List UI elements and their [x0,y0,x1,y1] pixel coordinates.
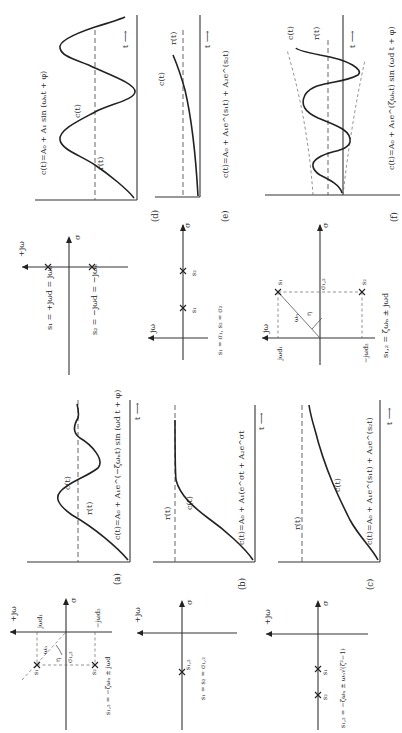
panel-b-pole-plot: σ +jω s₁,₂ s₁ = s₂ = σ₁,₂ [133,599,237,730]
omega-n-line [22,632,66,680]
sigma-label: σ [73,234,82,240]
c-label: c(t) [63,476,72,490]
jwd2-label: −jωd₂ [362,343,370,363]
eta-label: η [305,312,313,316]
omega-n-label: ωₙ [292,314,300,322]
s2-label: s₂ [190,270,198,276]
imag-axis-arrow-icon [262,335,268,341]
t-arrow-label: t ⟶ [257,412,266,430]
jw-label: +jω [263,609,272,625]
s12-label: s₁,₂ [184,659,192,670]
real-axis-arrow-icon [66,236,72,243]
panel-c-response: t ⟶ c(t) r(t) c(t)=A₀ + A₁e^(s₁t) + A₂e^… [278,400,394,590]
equation-e-response: c(t)=A₀ + A₁e^(s₁t) + A₂e^(s₂t) [221,50,230,178]
r-label: r(t) [96,157,105,170]
imag-axis-arrow-icon [10,629,16,635]
imag-axis-arrow-icon [148,335,154,341]
equation-a-response: c(t)=A₀ + A₁e^(−ζωₙt) sin (ωd t + φ) [113,390,122,540]
equation-c-pole: s₁,₂ = −ζωₙ ± ωₙ√(ζ²−1) [339,648,347,728]
s2-label: s₂ [321,694,329,700]
equation-f-pole: s₁,₂ = ζωₙ ± jωd [381,293,390,358]
s1-label: s₁ [276,279,284,285]
jw-label: jω [148,324,157,334]
c-label: c(t) [157,72,166,86]
r-label: r(t) [312,27,321,40]
envelope-upper [287,50,313,195]
s1-label: s₁ [321,669,329,675]
response-curve-c [173,55,198,196]
r-label: r(t) [293,517,302,530]
sigma12-label: σ₁,₂ [66,651,74,663]
equation-e-pole: s₁ = σ₁, s₂ = σ₂ [216,305,224,355]
caption-e: (e) [220,210,230,222]
jwd2-label: −jωd₂ [94,608,102,628]
sigma-label: σ [321,222,330,228]
panel-a-pole-plot: σ +jω s₁ s₂ σ₁,₂ ωₙ η jωd₁ −jωd₂ s₁,₂ = … [9,597,112,730]
sigma-label: σ [185,599,194,605]
eta-label: η [54,658,62,662]
equation-c-response: c(t)=A₀ + A₁e^(s₁t) + A₂e^(s₂t) [365,417,374,545]
jw-label: +jω [133,607,142,623]
jw-label: +jω [9,606,18,622]
equation-d-response: c(t)=A₀ + A₁ sin (ωₙt + φ) [39,71,48,175]
t-arrow-label: t ⟶ [385,407,394,425]
sigma-label: σ [321,600,330,606]
imag-axis-arrow-icon [22,264,28,270]
t-arrow-label: t ⟶ [203,30,212,48]
caption-f: (f) [389,212,399,222]
jw-label: +jω [17,241,26,257]
panel-b-response: t ⟶ c(t) r(t) c(t)=A₀ + A₁(e^σt + A₂e^σt… [153,405,266,590]
equation-d-pole-1: s₁ = +jωd = jωₙ [45,265,54,330]
t-arrow-label: t ⟶ [121,30,130,48]
jw-label: jω [261,324,270,334]
t-arrow-label: t ⟶ [348,30,357,48]
equation-b-pole: s₁ = s₂ = σ₁,₂ [199,657,207,700]
c-label: c(t) [185,496,194,510]
imag-axis-arrow-icon [137,630,143,636]
equation-b-response: c(t)=A₀ + A₁(e^σt + A₂e^σt [237,430,246,545]
s2-label: s₂ [360,279,368,285]
caption-b: (b) [237,578,247,590]
caption-c: (c) [365,579,375,590]
panel-c-pole-plot: σ +jω s₁ s₂ s₁,₂ = −ζωₙ ± ωₙ√(ζ²−1) [263,600,368,730]
c-label: c(t) [286,26,295,40]
pole-response-figure: t ⟶ c(t) r(t) c(t)=A₀ + A₁ sin (ωₙt + φ)… [0,0,402,733]
panel-e-response: t ⟶ c(t) r(t) c(t)=A₀ + A₁e^(s₁t) + A₂e^… [155,15,230,222]
caption-a: (a) [112,573,122,585]
panel-f-pole-plot: σ jω s₁ s₂ σ₁,₂ ωₙ η jωd₁ −jωd₂ s₁,₂ = ζ… [261,222,390,365]
jwd1-label: jωd₁ [36,614,44,629]
panel-e-pole-plot: σ jω s₂ s₁ s₁ = σ₁, s₂ = σ₂ [148,222,224,360]
equation-f-response: c(t)=A₀ + A₁e^(ζωₙt) sin (ωd t + φ) [387,26,396,170]
imag-axis-arrow-icon [266,631,272,637]
s1-label: s₁ [32,669,40,675]
r-label: r(t) [169,32,178,45]
s1-label: s₁ [190,307,198,313]
sigma12-label: σ₁,₂ [319,278,327,290]
s2-label: s₂ [90,669,98,675]
omega-n-label: ωₙ [41,646,49,654]
eta-arc [56,645,62,655]
caption-d: (d) [150,210,160,222]
envelope-lower [343,60,365,195]
c-label: c(t) [333,478,342,492]
t-arrow-label: t ⟶ [133,402,142,420]
r-label: r(t) [85,502,94,515]
panel-d-pole-plot: σ +jω s₁ = +jωd = jωₙ s₂ = −jωd = −jωₙ [17,234,128,375]
panel-a-response: t ⟶ c(t) r(t) c(t)=A₀ + A₁e^(−ζωₙt) sin … [27,390,142,585]
jwd1-label: jωd₁ [276,346,284,361]
r-label: r(t) [163,507,172,520]
sigma-label: σ [183,222,192,228]
panel-f-response: t ⟶ c(t) r(t) c(t)=A₀ + A₁e^(ζωₙt) sin (… [265,15,400,222]
equation-d-pole-2: s₂ = −jωd = −jωₙ [90,264,99,335]
sigma-label: σ [69,597,78,603]
c-label: c(t) [73,104,82,118]
equation-a-pole: s₁,₂ = −ζωₙ ± jωd [104,657,112,715]
panel-d-response: t ⟶ c(t) r(t) c(t)=A₀ + A₁ sin (ωₙt + φ)… [35,15,160,222]
